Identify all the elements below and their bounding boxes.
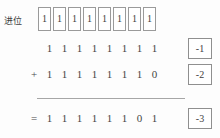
operator-sign-equals: =	[29, 111, 39, 125]
carry-bit-cell: 1	[83, 7, 96, 31]
bit-digit: 1	[117, 67, 132, 81]
carry-bit-cell: 1	[98, 7, 111, 31]
binary-addition-figure: 进位 1 1 1 1 1 1 1 1 1 1 1 1 1 1 1 1 -1 +	[0, 0, 220, 138]
bit-sequence: 1 1 1 1 1 1 1 0	[42, 67, 162, 81]
carry-bit-boxes: 1 1 1 1 1 1 1 1	[38, 7, 156, 31]
decimal-value-box: -3	[188, 108, 212, 129]
carry-bit-cell: 1	[113, 7, 126, 31]
sum-divider-line	[37, 98, 185, 99]
bit-digit: 1	[132, 41, 147, 55]
bit-digit: 1	[42, 67, 57, 81]
addend-row-1: 1 1 1 1 1 1 1 1 -1	[0, 38, 220, 60]
bit-sequence: 1 1 1 1 1 1 0 1	[42, 111, 162, 125]
carry-row: 进位 1 1 1 1 1 1 1 1	[0, 7, 220, 34]
bit-digit: 1	[102, 111, 117, 125]
bit-sequence: 1 1 1 1 1 1 1 1	[42, 41, 162, 55]
bit-digit: 1	[117, 41, 132, 55]
bit-digit: 1	[57, 67, 72, 81]
sum-row: = 1 1 1 1 1 1 0 1 -3	[0, 108, 220, 130]
bit-digit: 1	[42, 111, 57, 125]
operator-sign-plus: +	[29, 67, 39, 81]
bit-digit: 1	[42, 41, 57, 55]
bit-digit: 1	[57, 111, 72, 125]
bit-digit: 1	[102, 67, 117, 81]
carry-bit-cell: 1	[68, 7, 81, 31]
bit-digit: 1	[87, 41, 102, 55]
bit-digit: 0	[147, 67, 162, 81]
bit-digit: 1	[87, 111, 102, 125]
carry-bit-cell: 1	[128, 7, 141, 31]
bit-digit: 1	[102, 41, 117, 55]
decimal-value-box: -1	[188, 38, 212, 59]
bit-digit: 1	[147, 111, 162, 125]
bit-digit: 0	[132, 111, 147, 125]
carry-bit-cell: 1	[53, 7, 66, 31]
bit-digit: 1	[72, 41, 87, 55]
carry-bit-cell: 1	[143, 7, 156, 31]
carry-row-label: 进位	[4, 14, 22, 27]
bit-digit: 1	[147, 41, 162, 55]
decimal-value-box: -2	[188, 64, 212, 85]
bit-digit: 1	[132, 67, 147, 81]
bit-digit: 1	[72, 67, 87, 81]
bit-digit: 1	[57, 41, 72, 55]
addend-row-2: + 1 1 1 1 1 1 1 0 -2	[0, 64, 220, 86]
bit-digit: 1	[117, 111, 132, 125]
bit-digit: 1	[72, 111, 87, 125]
carry-bit-cell: 1	[38, 7, 51, 31]
bit-digit: 1	[87, 67, 102, 81]
